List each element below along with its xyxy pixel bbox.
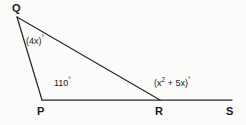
- angle-label-q: (4x)°: [26, 37, 44, 46]
- angle-label-q-text: (4x): [26, 36, 42, 46]
- degree-symbol-q: °: [42, 34, 45, 41]
- geometry-figure: ​ Q P R S (4x)° 110° (x2 + 5x)°: [0, 0, 246, 125]
- vertex-label-s: S: [226, 106, 234, 117]
- vertex-label-q: Q: [12, 3, 21, 14]
- angle-label-p: 110°: [54, 79, 71, 88]
- degree-symbol-p: °: [68, 76, 71, 83]
- vertex-label-p: P: [37, 106, 45, 117]
- angle-label-r-prefix: (x: [154, 78, 162, 88]
- angle-label-p-text: 110: [54, 78, 68, 88]
- degree-symbol-r: °: [188, 76, 191, 83]
- angle-label-r-middle: + 5x): [165, 78, 188, 88]
- angle-label-r: (x2 + 5x)°: [154, 79, 191, 88]
- vertex-label-r: R: [155, 106, 163, 117]
